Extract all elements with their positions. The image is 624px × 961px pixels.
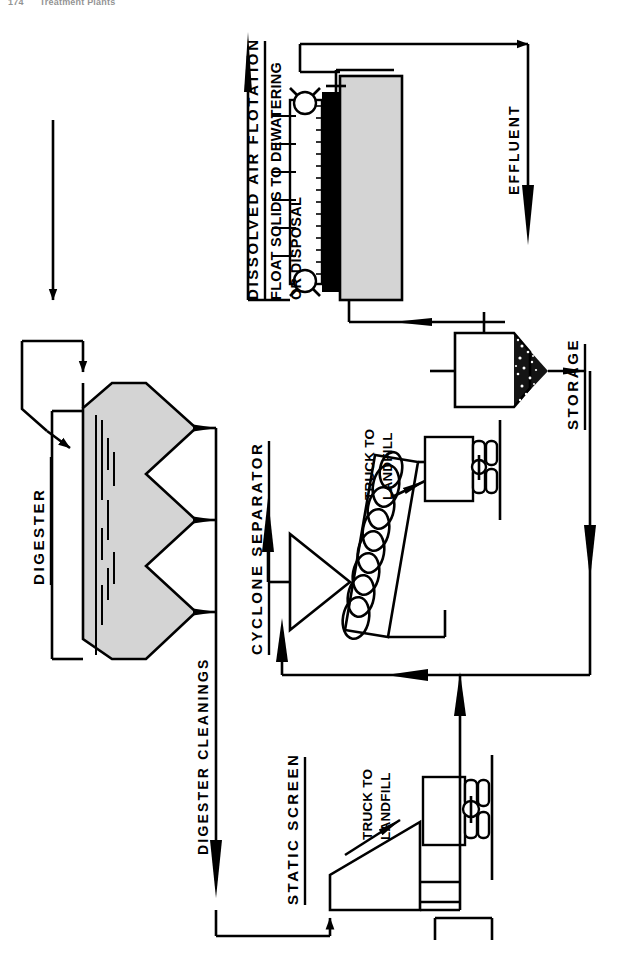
label-truck-lower-line2: LANDFILL (378, 772, 393, 840)
label-cyclone-separator: CYCLONE SEPARATOR (248, 442, 265, 655)
stream-storage-recycle (276, 371, 596, 681)
daf-feed-arrowhead (392, 318, 432, 326)
daf-basin (340, 76, 402, 300)
unit-cyclone-separator: CYCLONE SEPARATOR (248, 441, 445, 655)
digester-tank-body (83, 383, 196, 659)
truck-upper-body (425, 437, 473, 501)
storage-recycle-arrowhead (584, 525, 596, 580)
label-truck-upper-line2: LANDFILL (380, 432, 395, 500)
label-float-solids-line1: FLOAT SOLIDS TO DEWATERING (268, 62, 284, 300)
label-truck-lower-line1: TRUCK TO (360, 769, 375, 840)
unit-truck-upper: TRUCK TO LANDFILL (362, 420, 500, 520)
label-static-screen-group: STATIC SCREEN (284, 753, 305, 905)
label-storage-group: STORAGE (564, 338, 585, 430)
stream-digester-to-daf (196, 428, 216, 660)
label-truck-upper-line1: TRUCK TO (362, 429, 377, 500)
label-effluent: EFFLUENT (506, 104, 522, 195)
storage-recycle-bottom-arrowhead (386, 669, 428, 681)
static-screen-underflow (420, 882, 460, 910)
label-digester-group: DIGESTER (30, 457, 51, 585)
label-static-screen: STATIC SCREEN (284, 753, 301, 905)
unit-storage: STORAGE (430, 312, 586, 430)
storage-recycle-riser-arrowhead (276, 618, 288, 662)
label-float-solids-line2: OR DISPOSAL (288, 197, 304, 300)
label-digester-cleanings-group: DIGESTER CLEANINGS (195, 657, 211, 855)
daf-drive-sprocket-top (294, 92, 316, 114)
digester-recirc-return (47, 431, 70, 448)
truck-lower-platform (435, 918, 492, 940)
effluent-arrowhead (522, 185, 534, 245)
storage-discharge-cone (514, 331, 548, 407)
label-truck-lower-group: TRUCK TO LANDFILL (360, 769, 393, 840)
stream-digester-cleanings: DIGESTER CLEANINGS (195, 657, 330, 936)
cyclone-cone (290, 534, 350, 630)
process-flow-diagram: DIGESTER (0, 0, 624, 961)
screen-underflow-arrowhead (454, 672, 466, 716)
unit-digester: DIGESTER (22, 120, 196, 659)
digester-cleanings-arrowhead (210, 840, 222, 898)
diagram-page: 174Treatment Plants (0, 0, 624, 961)
label-digester-cleanings: DIGESTER CLEANINGS (195, 657, 211, 855)
unit-truck-lower: TRUCK TO LANDFILL (360, 755, 492, 940)
label-effluent-group: EFFLUENT (506, 104, 522, 195)
stream-storage-to-daf (349, 300, 505, 326)
label-digester: DIGESTER (30, 488, 47, 585)
label-storage: STORAGE (564, 338, 581, 430)
digester-recirculation-loop (22, 341, 47, 431)
truck-lower-wheels (463, 780, 489, 838)
truck-upper-wheels (472, 441, 497, 493)
